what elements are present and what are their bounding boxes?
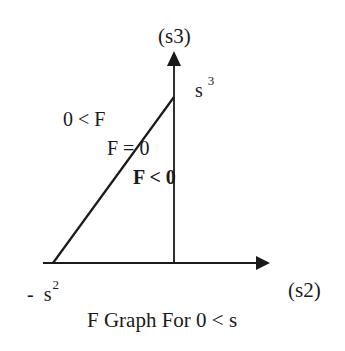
intercept-left-label: -s2 [27,277,59,305]
vertical-axis-label: (s3) [158,24,191,48]
s2-axis-arrowhead-icon [256,256,270,270]
f-graph-diagram: (s3) s3 0 < F F = 0 F < 0 -s2 (s2) F Gra… [0,0,345,351]
s3-axis-arrowhead-icon [167,51,181,66]
horizontal-axis-label: (s2) [288,278,321,302]
region-negative-label: F < 0 [133,166,176,188]
intercept-top-label: s3 [195,73,214,101]
boundary-label: F = 0 [107,137,149,159]
region-positive-label: 0 < F [63,108,105,130]
caption: F Graph For 0 < s [87,308,237,332]
